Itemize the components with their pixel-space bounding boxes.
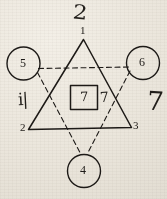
dashed-edge-5-4 (38, 73, 81, 154)
center-box-label: 7 (80, 90, 89, 103)
dashed-edge-5-6 (39, 67, 130, 69)
diagram-canvas: 1 2 3 5 6 4 7 2 i| 7 7 (0, 0, 167, 199)
circle-label-5: 5 (20, 57, 26, 69)
margin-mark-right: 7 (146, 87, 164, 114)
circle-label-6: 6 (139, 56, 145, 68)
vertex-label-2: 2 (20, 122, 26, 133)
circle-label-4: 4 (80, 164, 86, 176)
margin-mark-box-right: 7 (100, 90, 110, 105)
margin-mark-top: 2 (72, 1, 89, 22)
vertex-label-3: 3 (133, 120, 139, 131)
vertex-label-1: 1 (80, 25, 86, 36)
margin-mark-left: i| (18, 91, 28, 108)
